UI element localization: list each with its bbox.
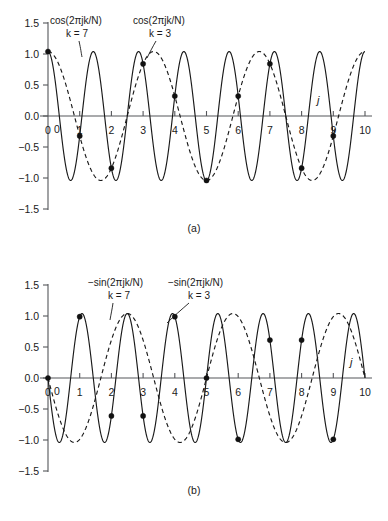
sample-marker [141, 413, 146, 418]
sample-marker [331, 133, 336, 138]
y-tick-label: 1.0 [24, 310, 39, 322]
sample-marker [236, 437, 241, 442]
x-tick-label: 3 [140, 124, 146, 136]
x-tick-label: 6 [235, 124, 241, 136]
panel-b: 1.51.00.50.0−0.5−1.0−1.5 012345678910 0 … [0, 260, 388, 521]
x-tick-label: 1 [77, 386, 83, 398]
annotation-k7-expr-b: −sin(2πjk/N) [88, 277, 143, 288]
x-tick-label: 10 [359, 124, 371, 136]
x-tick-label: 7 [267, 124, 273, 136]
x-axis-variable-a: j [315, 94, 320, 106]
x-tick-label: 2 [108, 124, 114, 136]
origin-label-a: 0 [54, 123, 60, 135]
y-tick-label: −1.5 [18, 465, 39, 477]
caption-a: (a) [188, 222, 201, 234]
sample-marker [267, 337, 272, 342]
y-tick-label: 0.5 [24, 341, 39, 353]
x-tick-label: 5 [204, 124, 210, 136]
leader-line-k7-a [79, 41, 82, 57]
y-tick-label: 0.0 [24, 372, 39, 384]
origin-label-b: 0 [54, 385, 60, 397]
sample-marker [299, 166, 304, 171]
x-ticks-b [80, 373, 365, 378]
sample-marker [77, 133, 82, 138]
y-tick-label: 1.5 [24, 17, 39, 29]
annotation-k3-k-a: k = 3 [149, 28, 171, 39]
annotation-k7-expr-a: cos(2πjk/N) [50, 15, 102, 26]
plot-b: 1.51.00.50.0−0.5−1.0−1.5 012345678910 0 … [0, 260, 388, 521]
x-tick-label: 9 [330, 386, 336, 398]
sample-marker [109, 413, 114, 418]
sample-marker [204, 375, 209, 380]
sample-marker [109, 166, 114, 171]
sample-marker [331, 437, 336, 442]
sample-marker [45, 375, 50, 380]
plot-a: 1.51.00.50.0−0.5−1.0−1.5 012345678910 0 … [0, 0, 388, 260]
leader-line-k3-a [147, 41, 156, 58]
y-tick-labels-a: 1.51.00.50.0−0.5−1.0−1.5 [18, 17, 39, 215]
annotation-k7-k-b: k = 7 [108, 290, 130, 301]
x-ticks-a [80, 111, 365, 116]
sample-marker [267, 61, 272, 66]
annotation-k7-a: cos(2πjk/N) k = 7 [50, 15, 102, 57]
caption-b: (b) [188, 484, 201, 496]
annotation-k3-expr-a: cos(2πjk/N) [133, 15, 185, 26]
y-tick-label: −1.0 [18, 172, 39, 184]
sample-marker [45, 49, 50, 54]
x-tick-label: 8 [299, 386, 305, 398]
y-tick-label: −1.5 [18, 203, 39, 215]
y-tick-label: 0.5 [24, 79, 39, 91]
x-tick-label: 8 [299, 124, 305, 136]
x-tick-label: 10 [359, 386, 371, 398]
x-tick-labels-a: 012345678910 [45, 124, 371, 136]
x-tick-label: 6 [235, 386, 241, 398]
annotation-k7-k-a: k = 7 [66, 28, 88, 39]
sample-marker [77, 314, 82, 319]
x-tick-label: 4 [172, 124, 178, 136]
panel-a: 1.51.00.50.0−0.5−1.0−1.5 012345678910 0 … [0, 0, 388, 260]
x-tick-label: 7 [267, 386, 273, 398]
sample-marker [236, 93, 241, 98]
sample-marker [204, 178, 209, 183]
x-axis-variable-b: j [348, 356, 353, 368]
sample-marker [141, 61, 146, 66]
figure-root: 1.51.00.50.0−0.5−1.0−1.5 012345678910 0 … [0, 0, 388, 521]
annotation-k3-k-b: k = 3 [188, 290, 210, 301]
leader-line-k7-b [110, 303, 113, 320]
annotation-k3-a: cos(2πjk/N) k = 3 [133, 15, 185, 58]
y-tick-label: 1.5 [24, 279, 39, 291]
y-tick-label: 1.0 [24, 48, 39, 60]
y-tick-label: −0.5 [18, 403, 39, 415]
annotation-k7-b: −sin(2πjk/N) k = 7 [88, 277, 143, 320]
y-tick-label: −0.5 [18, 141, 39, 153]
sample-marker [299, 337, 304, 342]
x-tick-label: 0 [45, 124, 51, 136]
leader-line-k3-b [167, 303, 189, 323]
y-tick-labels-b: 1.51.00.50.0−0.5−1.0−1.5 [18, 279, 39, 477]
sample-marker [172, 93, 177, 98]
x-tick-label: 4 [172, 386, 178, 398]
y-tick-label: −1.0 [18, 434, 39, 446]
y-tick-label: 0.0 [24, 110, 39, 122]
annotation-k3-expr-b: −sin(2πjk/N) [168, 277, 223, 288]
